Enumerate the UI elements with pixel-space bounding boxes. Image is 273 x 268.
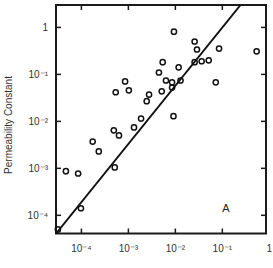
data-point [90, 139, 95, 144]
chart: 10⁻⁴10⁻³10⁻²10⁻¹1 110⁻¹10⁻²10⁻³10⁻⁴ Perm… [0, 0, 273, 268]
fit-line-group [56, 5, 240, 233]
data-point [176, 65, 181, 70]
data-point [78, 206, 83, 211]
data-point [199, 59, 204, 64]
regression-line [56, 5, 240, 233]
data-point [213, 80, 218, 85]
x-tick-labels: 10⁻⁴10⁻³10⁻²10⁻¹1 [71, 243, 272, 254]
data-point [111, 128, 116, 133]
data-point [116, 133, 121, 138]
data-point [206, 58, 211, 63]
data-point [144, 99, 149, 104]
y-tick-label: 10⁻⁴ [28, 210, 48, 221]
data-point [146, 92, 151, 97]
data-point [63, 169, 68, 174]
y-axis-label: Permeability Constant [3, 76, 14, 174]
data-point [156, 70, 161, 75]
y-tick-label: 1 [42, 22, 48, 33]
data-point [171, 29, 176, 34]
x-tick-label: 10⁻³ [119, 243, 139, 254]
data-point [122, 79, 127, 84]
data-point [126, 88, 131, 93]
data-point [96, 149, 101, 154]
plot-frame [56, 5, 266, 234]
data-point [216, 46, 221, 51]
data-point [138, 116, 143, 121]
y-tick-label: 10⁻² [29, 116, 49, 127]
plot-border [56, 5, 266, 234]
data-point [112, 165, 117, 170]
data-point [159, 89, 164, 94]
data-point [76, 171, 81, 176]
data-point [192, 39, 197, 44]
y-tick-label: 10⁻³ [29, 163, 49, 174]
x-tick-label: 10⁻¹ [213, 243, 233, 254]
data-point [163, 78, 168, 83]
y-tick-label: 10⁻¹ [29, 69, 49, 80]
x-tick-label: 10⁻⁴ [71, 243, 91, 254]
panel-annotation: A [222, 202, 230, 214]
x-tick-label: 1 [267, 243, 273, 254]
data-point [254, 49, 259, 54]
data-point [160, 60, 165, 65]
y-tick-labels: 110⁻¹10⁻²10⁻³10⁻⁴ [28, 22, 49, 221]
data-point [194, 47, 199, 52]
axis-ticks [56, 5, 266, 234]
x-tick-label: 10⁻² [166, 243, 186, 254]
data-point [113, 90, 118, 95]
data-point [131, 125, 136, 130]
data-point [171, 114, 176, 119]
